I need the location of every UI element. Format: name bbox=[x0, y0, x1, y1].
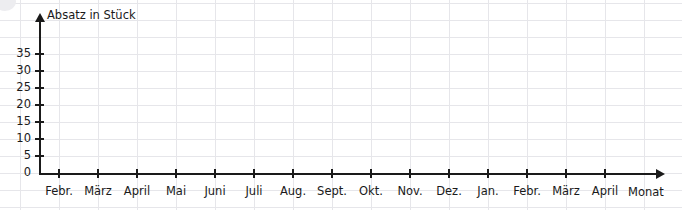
x-axis-title: Monat bbox=[628, 185, 664, 199]
x-axis-tick bbox=[487, 169, 489, 178]
grid-line-horizontal bbox=[0, 88, 682, 89]
grid-line-horizontal bbox=[0, 105, 682, 106]
y-axis-line bbox=[39, 22, 41, 175]
x-axis-line bbox=[39, 173, 656, 175]
x-axis-tick bbox=[526, 169, 528, 178]
y-axis-tick-label: 35 bbox=[0, 47, 31, 59]
x-axis-tick bbox=[292, 169, 294, 178]
x-axis-tick bbox=[448, 169, 450, 178]
chart-canvas: Absatz in Stück Monat 05101520253035 Feb… bbox=[0, 0, 682, 210]
x-axis-tick bbox=[604, 169, 606, 178]
y-axis-arrowhead-icon bbox=[35, 13, 45, 22]
y-axis-tick-label: 25 bbox=[0, 81, 31, 93]
x-axis-tick bbox=[331, 169, 333, 178]
x-axis-arrowhead-icon bbox=[656, 169, 665, 179]
x-axis-tick bbox=[370, 169, 372, 178]
grid-line-horizontal bbox=[0, 3, 682, 4]
y-axis-tick bbox=[35, 70, 44, 72]
x-axis-tick bbox=[175, 169, 177, 178]
grid-line-horizontal bbox=[0, 139, 682, 140]
y-axis-tick-label: 5 bbox=[0, 149, 31, 161]
x-axis-tick-label: April bbox=[577, 185, 633, 197]
y-axis-tick bbox=[35, 155, 44, 157]
y-axis-tick bbox=[35, 104, 44, 106]
y-axis-tick-label: 15 bbox=[0, 115, 31, 127]
y-axis-tick bbox=[35, 87, 44, 89]
background-grid bbox=[0, 0, 682, 210]
x-axis-tick bbox=[58, 169, 60, 178]
x-axis-tick bbox=[565, 169, 567, 178]
y-axis-tick-label: 10 bbox=[0, 132, 31, 144]
x-axis-tick bbox=[214, 169, 216, 178]
x-axis-tick bbox=[253, 169, 255, 178]
y-axis-tick bbox=[35, 53, 44, 55]
grid-line-horizontal bbox=[0, 37, 682, 38]
y-axis-tick bbox=[35, 138, 44, 140]
x-axis-tick bbox=[97, 169, 99, 178]
grid-line-horizontal bbox=[0, 122, 682, 123]
y-axis-tick-label: 20 bbox=[0, 98, 31, 110]
grid-line-horizontal bbox=[0, 156, 682, 157]
y-axis-title: Absatz in Stück bbox=[47, 8, 136, 22]
y-axis-tick-label: 0 bbox=[0, 166, 31, 178]
x-axis-tick bbox=[409, 169, 411, 178]
grid-line-horizontal bbox=[0, 207, 682, 208]
y-axis-tick bbox=[35, 121, 44, 123]
y-axis-tick-label: 30 bbox=[0, 64, 31, 76]
grid-line-horizontal bbox=[0, 54, 682, 55]
grid-line-horizontal bbox=[0, 71, 682, 72]
x-axis-tick bbox=[136, 169, 138, 178]
